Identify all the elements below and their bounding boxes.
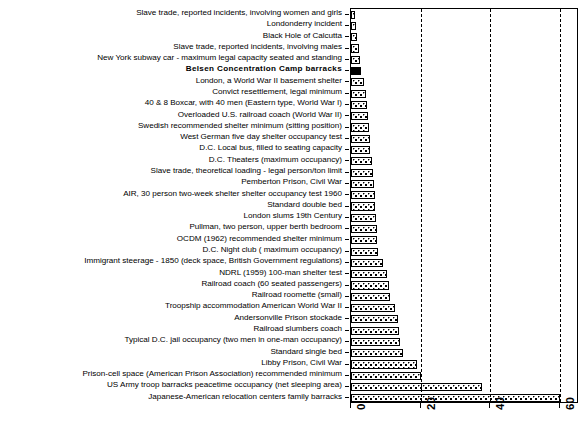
y-tick-mark <box>345 70 349 71</box>
bar-row <box>351 235 377 246</box>
bar-7 <box>351 90 366 98</box>
bar-27 <box>351 315 398 323</box>
bar-20 <box>351 236 377 244</box>
y-tick-mark <box>345 262 349 263</box>
bar-row <box>351 88 366 99</box>
y-axis-label: 40 & 8 Boxcar, with 40 men (Eastern type… <box>0 99 342 107</box>
bar-row <box>351 257 383 268</box>
bar-row <box>351 111 368 122</box>
bar-rows <box>351 9 577 402</box>
x-axis: 0204060 <box>350 403 578 438</box>
bar-row <box>351 370 421 381</box>
y-tick-mark <box>345 330 349 331</box>
bar-row <box>351 246 378 257</box>
y-axis-label: D.C. Night club ( maximum occupancy) <box>0 246 342 254</box>
bar-33 <box>351 383 482 391</box>
y-tick-mark <box>345 115 349 116</box>
y-tick-mark <box>345 364 349 365</box>
y-tick-mark <box>345 36 349 37</box>
y-axis-label: Slave trade, theoretical loading - legal… <box>0 167 342 175</box>
y-tick-mark <box>345 397 349 398</box>
y-tick-mark <box>345 341 349 342</box>
bar-row <box>351 156 372 167</box>
bar-row <box>351 291 390 302</box>
x-tick-label-0: 0 <box>355 404 367 410</box>
bar-row <box>351 20 356 31</box>
bar-24 <box>351 281 389 289</box>
y-tick-mark <box>345 206 349 207</box>
bar-row <box>351 223 377 234</box>
x-tick-label-40: 40 <box>494 397 506 410</box>
y-axis-label: Standard double bed <box>0 201 342 209</box>
x-tick-0 <box>350 403 351 408</box>
y-axis-label: Prison-cell space (American Prison Assoc… <box>0 370 342 378</box>
y-axis-label: West German five day shelter occupancy t… <box>0 133 342 141</box>
y-axis-label: Railroad slumbers coach <box>0 325 342 333</box>
y-tick-mark <box>345 149 349 150</box>
bar-row <box>351 212 376 223</box>
bar-row <box>351 393 560 403</box>
x-tick-40 <box>489 403 490 408</box>
bar-row <box>351 167 373 178</box>
bar-17 <box>351 202 375 210</box>
y-axis-label: Standard single bed <box>0 348 342 356</box>
y-tick-mark <box>345 93 349 94</box>
y-axis-label: Japanese-American relocation centers fam… <box>0 393 342 401</box>
y-tick-mark <box>345 183 349 184</box>
y-tick-mark <box>345 228 349 229</box>
bar-row <box>351 190 375 201</box>
plot-area <box>350 8 578 403</box>
bar-chart: Slave trade, reported incidents, involvi… <box>0 0 585 438</box>
y-axis-label: AIR, 30 person two-week shelter shelter … <box>0 190 342 198</box>
y-axis-label: Railroad coach (60 seated passengers) <box>0 280 342 288</box>
bar-row <box>351 325 399 336</box>
y-tick-mark <box>345 239 349 240</box>
bar-6 <box>351 78 364 86</box>
y-tick-mark <box>345 127 349 128</box>
bar-18 <box>351 214 376 222</box>
bar-row <box>351 54 360 65</box>
y-axis-label: Troopship accommodation American World W… <box>0 302 342 310</box>
bar-12 <box>351 146 370 154</box>
bar-4 <box>351 56 360 64</box>
y-tick-mark <box>345 217 349 218</box>
y-axis-label: Overloaded U.S. railroad coach (World Wa… <box>0 111 342 119</box>
y-tick-mark <box>345 352 349 353</box>
bar-13 <box>351 157 372 165</box>
y-tick-mark <box>345 273 349 274</box>
y-axis-label: London, a World War II basement shelter <box>0 77 342 85</box>
bar-11 <box>351 135 370 143</box>
y-tick-mark <box>345 25 349 26</box>
y-axis-label: Railroad roomette (small) <box>0 291 342 299</box>
y-tick-mark <box>345 104 349 105</box>
gridline-60 <box>560 9 561 402</box>
bar-row <box>351 314 398 325</box>
y-axis-label: Slave trade, reported incidents, involvi… <box>0 9 342 17</box>
y-tick-mark <box>345 172 349 173</box>
bar-row <box>351 77 364 88</box>
y-tick-mark <box>345 375 349 376</box>
bar-31 <box>351 360 417 368</box>
bar-row <box>351 65 361 76</box>
bar-row <box>351 381 482 392</box>
y-axis-label: Pullman, two person, upper berth bedroom <box>0 223 342 231</box>
y-axis-label: London slums 19th Century <box>0 212 342 220</box>
y-axis-label: Belsen Concentration Camp barracks <box>0 65 342 73</box>
bar-25 <box>351 293 390 301</box>
y-axis-label: Slave trade, reported incidents, involvi… <box>0 43 342 51</box>
bar-row <box>351 280 389 291</box>
y-axis-label: Swedish recommended shelter minimum (sit… <box>0 122 342 130</box>
x-tick-20 <box>420 403 421 408</box>
bar-30 <box>351 349 403 357</box>
y-tick-mark <box>345 138 349 139</box>
y-axis-label: Londonderry incident <box>0 20 342 28</box>
bar-row <box>351 9 355 20</box>
bar-1 <box>351 22 356 30</box>
y-axis-label: Libby Prison, Civil War <box>0 359 342 367</box>
bar-row <box>351 201 375 212</box>
gridline-20 <box>421 9 422 402</box>
y-axis-label: Andersonville Prison stockade <box>0 314 342 322</box>
x-tick-label-60: 60 <box>564 397 576 410</box>
bar-row <box>351 144 370 155</box>
y-axis-label: Pemberton Prison, Civil War <box>0 178 342 186</box>
